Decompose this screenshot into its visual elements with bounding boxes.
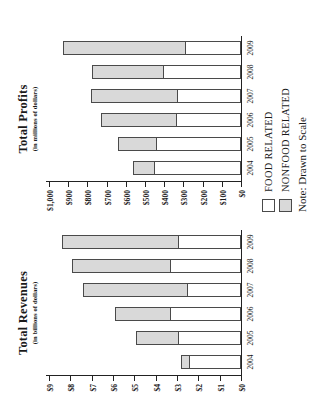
value-axis-line-profits bbox=[46, 181, 242, 182]
bar-segment-food bbox=[157, 137, 241, 152]
bar-group bbox=[63, 41, 241, 56]
legend-swatch-food-icon bbox=[262, 199, 275, 212]
value-tick bbox=[87, 182, 88, 187]
category-label: 2004 bbox=[246, 355, 255, 370]
bar-segment-nonfood bbox=[62, 235, 179, 250]
category-label: 2006 bbox=[246, 307, 255, 322]
category-label: 2006 bbox=[246, 113, 255, 128]
value-tick-label: $400 bbox=[161, 190, 170, 205]
legend-label-nonfood: NONFOOD RELATED bbox=[280, 88, 291, 192]
bar-group bbox=[181, 355, 241, 370]
plot-area-total-revenues: $0$1$2$3$4$5$6$7$8$920042005200620072008… bbox=[46, 230, 242, 376]
value-tick-label: $700 bbox=[104, 190, 113, 205]
category-label: 2004 bbox=[246, 161, 255, 176]
value-tick-label: $5 bbox=[131, 384, 140, 392]
bar-group bbox=[115, 307, 241, 322]
value-tick bbox=[177, 376, 178, 381]
bar-segment-food bbox=[178, 89, 241, 104]
bar-group bbox=[136, 331, 241, 346]
value-tick bbox=[156, 376, 157, 381]
value-tick-label: $100 bbox=[219, 190, 228, 205]
value-tick-label: $500 bbox=[142, 190, 151, 205]
category-label: 2008 bbox=[246, 259, 255, 274]
value-tick-label: $0 bbox=[238, 190, 247, 198]
bar-segment-food bbox=[190, 355, 241, 370]
chart-panel-total-revenues: Total Revenues (in billions of dollars) … bbox=[0, 220, 333, 406]
value-tick-label: $600 bbox=[123, 190, 132, 205]
legend-item-food: FOOD RELATED bbox=[262, 12, 275, 212]
bar-segment-nonfood bbox=[118, 137, 157, 152]
bar-segment-food bbox=[179, 235, 241, 250]
figure: Total Revenues (in billions of dollars) … bbox=[0, 0, 333, 408]
value-axis-line-revenues bbox=[46, 375, 242, 376]
value-tick bbox=[68, 182, 69, 187]
value-tick bbox=[198, 376, 199, 381]
value-tick-label: $900 bbox=[65, 190, 74, 205]
category-label: 2007 bbox=[246, 89, 255, 104]
value-tick bbox=[134, 376, 135, 381]
chart-subtitle-total-revenues: (in billions of dollars) bbox=[31, 220, 38, 406]
bar-group bbox=[133, 161, 241, 176]
category-label: 2008 bbox=[246, 65, 255, 80]
bar-segment-food bbox=[177, 113, 241, 128]
bar-segment-nonfood bbox=[101, 113, 177, 128]
category-label: 2005 bbox=[246, 331, 255, 346]
chart-note: Note: Drawn to Scale bbox=[296, 117, 308, 212]
bar-segment-nonfood bbox=[181, 355, 190, 370]
bar-segment-food bbox=[186, 41, 241, 56]
chart-title-total-revenues: Total Revenues bbox=[16, 220, 31, 406]
category-axis-line-profits bbox=[241, 36, 242, 182]
value-tick bbox=[70, 376, 71, 381]
value-tick-label: $200 bbox=[200, 190, 209, 205]
value-tick-label: $1 bbox=[217, 384, 226, 392]
value-tick bbox=[164, 182, 165, 187]
value-tick bbox=[241, 376, 242, 381]
value-tick-label: $300 bbox=[180, 190, 189, 205]
bar-group bbox=[118, 137, 241, 152]
value-tick bbox=[241, 182, 242, 187]
legend: FOOD RELATED NONFOOD RELATED bbox=[262, 12, 296, 212]
bar-segment-nonfood bbox=[92, 65, 164, 80]
bar-segment-nonfood bbox=[115, 307, 170, 322]
value-tick-label: $3 bbox=[174, 384, 183, 392]
bar-group bbox=[92, 65, 241, 80]
bar-segment-food bbox=[155, 161, 241, 176]
value-tick bbox=[183, 182, 184, 187]
bar-segment-nonfood bbox=[83, 283, 188, 298]
chart-subtitle-total-profits: (in millions of dollars) bbox=[31, 26, 38, 212]
value-tick bbox=[203, 182, 204, 187]
legend-item-nonfood: NONFOOD RELATED bbox=[279, 12, 292, 212]
value-tick bbox=[92, 376, 93, 381]
value-tick-label: $0 bbox=[238, 384, 247, 392]
bar-segment-nonfood bbox=[133, 161, 155, 176]
value-tick-label: $1,000 bbox=[46, 190, 55, 211]
category-label: 2007 bbox=[246, 283, 255, 298]
value-tick-label: $6 bbox=[110, 384, 119, 392]
value-tick-label: $7 bbox=[89, 384, 98, 392]
category-axis-line-revenues bbox=[241, 230, 242, 376]
chart-title-total-profits: Total Profits bbox=[16, 26, 31, 212]
bar-segment-food bbox=[179, 331, 241, 346]
value-tick bbox=[126, 182, 127, 187]
value-tick bbox=[49, 182, 50, 187]
bar-group bbox=[101, 113, 241, 128]
category-label: 2009 bbox=[246, 41, 255, 56]
bar-segment-nonfood bbox=[91, 89, 177, 104]
bar-segment-food bbox=[188, 283, 241, 298]
category-label: 2009 bbox=[246, 235, 255, 250]
bar-group bbox=[83, 283, 241, 298]
bar-segment-nonfood bbox=[63, 41, 186, 56]
bar-group bbox=[72, 259, 241, 274]
value-tick-label: $800 bbox=[84, 190, 93, 205]
bar-group bbox=[62, 235, 241, 250]
value-tick-label: $4 bbox=[153, 384, 162, 392]
value-tick-label: $2 bbox=[195, 384, 204, 392]
bar-segment-nonfood bbox=[72, 259, 170, 274]
bar-group bbox=[91, 89, 241, 104]
value-tick bbox=[145, 182, 146, 187]
plot-area-total-profits: $0$100$200$300$400$500$600$700$800$900$1… bbox=[46, 36, 242, 182]
category-label: 2005 bbox=[246, 137, 255, 152]
value-tick bbox=[49, 376, 50, 381]
bar-segment-nonfood bbox=[136, 331, 179, 346]
value-tick bbox=[220, 376, 221, 381]
